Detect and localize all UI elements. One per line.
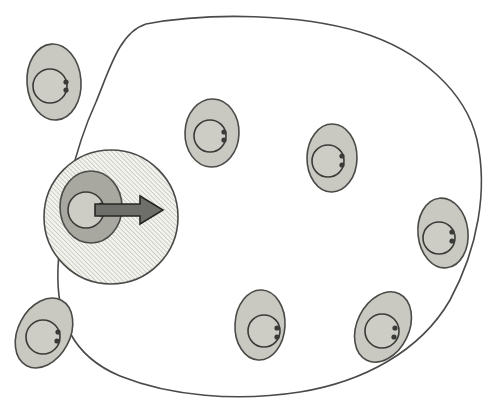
nucleus-granule <box>221 137 226 142</box>
nucleus-granule <box>274 334 279 339</box>
cell-nucleus <box>194 120 226 152</box>
nucleus-granule <box>54 338 59 343</box>
nucleus-granule <box>339 162 344 167</box>
figure-root: Cell migration diagram Outline of a larg… <box>0 0 499 411</box>
nucleus-granule <box>391 334 396 339</box>
cell <box>306 124 357 193</box>
nucleus-granule <box>63 79 68 84</box>
nucleus-granule <box>221 129 226 134</box>
nucleus-granule <box>449 229 454 234</box>
nucleus-granule <box>274 325 279 330</box>
nucleus-granule <box>63 87 68 92</box>
cell-nucleus <box>423 222 455 254</box>
nucleus-granule <box>392 325 397 330</box>
cell-nucleus <box>365 314 399 348</box>
nucleus-granule <box>339 153 344 158</box>
cell-nucleus <box>312 145 344 177</box>
cell-nucleus <box>33 69 67 103</box>
cell-nucleus <box>26 320 60 354</box>
nucleus-granule <box>449 238 454 243</box>
cell-nucleus <box>248 315 280 347</box>
cell-migration-diagram: Cell migration diagram Outline of a larg… <box>0 0 499 411</box>
nucleus-granule <box>55 329 60 334</box>
